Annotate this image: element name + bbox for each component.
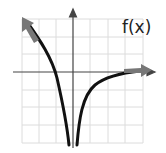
y-axis-arrow-icon xyxy=(70,9,77,17)
left-end-arrow-icon xyxy=(22,17,39,43)
function-label: f(x) xyxy=(122,17,151,37)
grid xyxy=(22,19,143,143)
curve xyxy=(27,22,140,145)
